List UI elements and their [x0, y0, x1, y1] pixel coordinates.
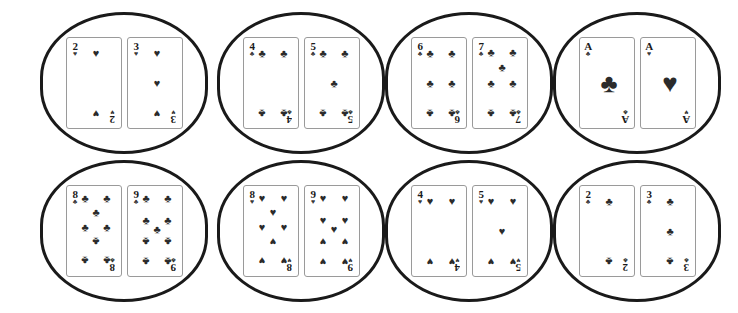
card-pip-icon: ♣	[164, 193, 171, 204]
card-pip-icon: ♥	[93, 107, 100, 118]
card-pip-icon: ♣	[487, 78, 494, 89]
card-pip-icon: ♣	[81, 254, 88, 265]
card-pip-icon: ♣	[81, 221, 88, 232]
playing-card[interactable]: 9♣♣♣♣♣♣♣♣♣♣9♣	[127, 185, 183, 277]
playing-card[interactable]: 7♣♣♣♣♣♣♣♣7♣	[472, 37, 528, 129]
card-pip-icon: ♣	[666, 196, 673, 207]
playing-card[interactable]: 6♣♣♣♣♣♣♣6♣	[411, 37, 467, 129]
playing-card[interactable]: 8♥♥♥♥♥♥♥♥♥8♥	[243, 185, 299, 277]
card-corner-index-bottom-right: 4♣	[284, 109, 295, 125]
card-pip-icon: ♣	[164, 235, 171, 246]
card-corner-index-bottom-right: 4♥	[452, 257, 463, 273]
card-suit-icon: ♥	[168, 109, 179, 115]
card-pip-icon: ♥	[320, 193, 327, 204]
card-pip-icon: ♣	[426, 107, 433, 118]
card-corner-index-bottom-right: 2♣	[620, 257, 631, 273]
card-pip-icon: ♥	[510, 196, 517, 207]
card-group[interactable]: 2♥♥♥2♥3♥♥♥♥3♥	[40, 12, 208, 154]
card-pip-icon: ♥	[259, 254, 266, 265]
card-pip-icon: ♥	[281, 193, 288, 204]
card-corner-index-bottom-right: 9♥	[345, 257, 356, 273]
card-pip-icon: ♥	[342, 193, 349, 204]
playing-card[interactable]: 4♥♥♥♥♥4♥	[411, 185, 467, 277]
card-pip-icon: ♥	[320, 235, 327, 246]
playing-card[interactable]: 3♣♣♣♣3♣	[640, 185, 696, 277]
card-group[interactable]: 2♣♣♣2♣3♣♣♣♣3♣	[553, 160, 721, 302]
card-pip-icon: ♣	[280, 48, 287, 59]
card-pip-icon: ♣	[319, 48, 326, 59]
card-pip-icon: ♣	[498, 61, 505, 72]
card-pip-icon: ♣	[605, 196, 612, 207]
card-suit-icon: ♣	[681, 257, 692, 263]
card-group[interactable]: 8♣♣♣♣♣♣♣♣♣8♣9♣♣♣♣♣♣♣♣♣♣9♣	[40, 160, 208, 302]
playing-card[interactable]: 9♥♥♥♥♥♥♥♥♥♥9♥	[304, 185, 360, 277]
card-group[interactable]: 4♣♣♣♣♣4♣5♣♣♣♣♣♣5♣	[217, 12, 385, 154]
playing-card[interactable]: 4♣♣♣♣♣4♣	[243, 37, 299, 129]
card-corner-index-bottom-right: 2♥	[107, 109, 118, 125]
card-pip-icon: ♥	[342, 235, 349, 246]
card-pip-icon: ♣	[509, 78, 516, 89]
playing-card[interactable]: 2♥♥♥2♥	[66, 37, 122, 129]
playing-card[interactable]: 8♣♣♣♣♣♣♣♣♣8♣	[66, 185, 122, 277]
card-pip-icon: ♥	[342, 215, 349, 226]
card-pip-icon: ♣	[666, 255, 673, 266]
card-pip-icon: ♣	[142, 215, 149, 226]
card-pip-icon: ♣	[448, 48, 455, 59]
playing-card[interactable]: 2♣♣♣2♣	[579, 185, 635, 277]
card-corner-index-bottom-right: 8♣	[107, 257, 118, 273]
card-pip-icon: ♥	[499, 226, 506, 237]
card-pip-icon: ♣	[153, 224, 160, 235]
card-pip-icon: ♣	[92, 207, 99, 218]
card-pip-icon: ♣	[426, 78, 433, 89]
card-pip-icon: ♣	[164, 215, 171, 226]
card-group[interactable]: 6♣♣♣♣♣♣♣6♣7♣♣♣♣♣♣♣♣7♣	[385, 12, 553, 154]
card-pip-icon: ♥	[154, 48, 161, 59]
card-group[interactable]: 8♥♥♥♥♥♥♥♥♥8♥9♥♥♥♥♥♥♥♥♥♥9♥	[217, 160, 385, 302]
card-pip-icon: ♥	[331, 224, 338, 235]
card-suit-icon: ♣	[107, 257, 118, 263]
card-corner-index-bottom-right: 7♣	[513, 109, 524, 125]
card-pip-icon: ♣	[103, 193, 110, 204]
card-pip-icon: ♣	[142, 235, 149, 246]
playing-card[interactable]: A♥♥A♥	[640, 37, 696, 129]
card-pip-icon: ♥	[259, 221, 266, 232]
card-pip-icon: ♣	[258, 48, 265, 59]
card-corner-index-bottom-right: 3♥	[168, 109, 179, 125]
card-pip-icon: ♣	[81, 193, 88, 204]
card-corner-index-bottom-right: 3♣	[681, 257, 692, 273]
card-pip-icon: ♥	[320, 215, 327, 226]
card-pip-icon: ♣	[142, 256, 149, 267]
playing-card[interactable]: A♣♣A♣	[579, 37, 635, 129]
card-suit-icon: ♥	[284, 257, 295, 263]
card-group[interactable]: 4♥♥♥♥♥4♥5♥♥♥♥♥♥5♥	[385, 160, 553, 302]
card-pip-icon: ♣	[509, 46, 516, 57]
card-corner-index-bottom-right: 5♣	[345, 109, 356, 125]
playing-card[interactable]: 3♥♥♥♥3♥	[127, 37, 183, 129]
card-pip-icon: ♣	[258, 107, 265, 118]
card-corner-index-bottom-right: 8♥	[284, 257, 295, 273]
card-suit-icon: ♣	[284, 109, 295, 115]
card-pip-icon: ♥	[488, 255, 495, 266]
card-pip-icon: ♣	[92, 235, 99, 246]
card-pip-icon: ♥	[270, 235, 277, 246]
card-pip-icon: ♥	[320, 256, 327, 267]
card-pip-icon: ♥	[259, 193, 266, 204]
card-pip-icon: ♣	[600, 70, 617, 96]
card-pip-icon: ♣	[426, 48, 433, 59]
card-group[interactable]: A♣♣A♣A♥♥A♥	[553, 12, 721, 154]
card-pip-icon: ♣	[142, 193, 149, 204]
card-pip-icon: ♥	[427, 255, 434, 266]
playing-card[interactable]: 5♣♣♣♣♣♣5♣	[304, 37, 360, 129]
card-pip-icon: ♥	[270, 207, 277, 218]
card-pip-icon: ♣	[666, 226, 673, 237]
playing-card[interactable]: 5♥♥♥♥♥♥5♥	[472, 185, 528, 277]
card-pip-icon: ♥	[93, 48, 100, 59]
card-pip-icon: ♣	[330, 78, 337, 89]
card-corner-index-bottom-right: A♥	[681, 109, 692, 125]
card-pip-icon: ♥	[154, 78, 161, 89]
card-suit-icon: ♣	[168, 257, 179, 263]
card-pip-icon: ♣	[487, 107, 494, 118]
card-pip-icon: ♣	[605, 255, 612, 266]
card-corner-index-bottom-right: 9♣	[168, 257, 179, 273]
card-corner-index-bottom-right: A♣	[620, 109, 631, 125]
